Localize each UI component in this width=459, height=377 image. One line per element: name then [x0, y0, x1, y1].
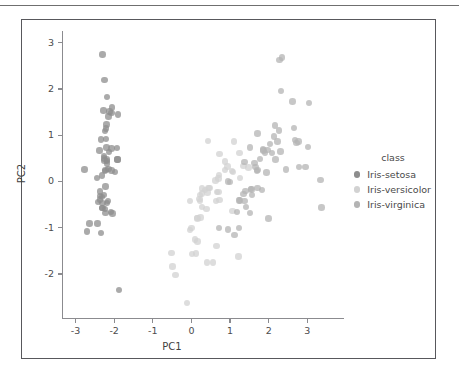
legend-item-label: Iris-versicolor — [367, 184, 431, 195]
scatter-point — [254, 130, 260, 136]
scatter-point — [306, 100, 312, 106]
scatter-point — [192, 236, 198, 242]
legend-entries: Iris-setosaIris-versicolorIris-virginica — [352, 167, 440, 212]
scatter-point — [109, 210, 115, 216]
scatter-point — [94, 220, 100, 226]
scatter-point — [241, 198, 247, 204]
legend-item-label: Iris-virginica — [367, 199, 425, 210]
scatter-point — [277, 148, 283, 154]
scatter-point — [257, 156, 263, 162]
scatter-point — [205, 138, 211, 144]
scatter-point — [97, 188, 103, 194]
scatter-point — [241, 159, 247, 165]
scatter-point — [231, 138, 237, 144]
scatter-point — [168, 250, 174, 256]
scatter-point — [305, 144, 311, 150]
scatter-point — [222, 158, 228, 164]
scatter-point — [102, 183, 108, 189]
scatter-point — [114, 156, 120, 162]
scatter-point — [295, 138, 301, 144]
scatter-point — [106, 108, 112, 114]
scatter-point — [101, 77, 107, 83]
scatter-point — [302, 164, 308, 170]
legend-marker-icon — [354, 186, 360, 192]
scatter-point — [169, 263, 175, 269]
scatter-point — [106, 149, 112, 155]
scatter-point — [204, 189, 210, 195]
scatter-point — [243, 204, 249, 210]
scatter-point — [187, 227, 193, 233]
scatter-point — [196, 196, 202, 202]
scatter-point — [81, 166, 87, 172]
scatter-point — [265, 215, 271, 221]
legend-marker-icon — [354, 171, 360, 177]
scatter-point — [216, 225, 222, 231]
scatter-point — [283, 166, 289, 172]
scatter-point — [271, 133, 277, 139]
scatter-point — [236, 150, 242, 156]
scatter-point — [199, 204, 205, 210]
scatter-point — [289, 98, 295, 104]
scatter-point — [236, 225, 242, 231]
scatter-point — [237, 175, 243, 181]
scatter-point — [234, 209, 240, 215]
scatter-point — [272, 122, 278, 128]
scatter-point — [269, 150, 275, 156]
scatter-point — [251, 160, 257, 166]
scatter-point — [249, 192, 255, 198]
legend-item[interactable]: Iris-virginica — [352, 197, 440, 212]
scatter-point — [114, 145, 120, 151]
scatter-point — [212, 177, 218, 183]
scatter-point — [215, 189, 221, 195]
legend-item[interactable]: Iris-setosa — [352, 167, 440, 182]
scatter-point — [263, 169, 269, 175]
legend-marker-icon — [354, 201, 360, 207]
scatter-point — [279, 54, 285, 60]
scatter-point — [97, 196, 103, 202]
scatter-point — [225, 178, 231, 184]
scatter-point — [278, 88, 284, 94]
scatter-point — [216, 151, 222, 157]
scatter-point — [84, 228, 90, 234]
scatter-point — [199, 185, 205, 191]
scatter-point — [210, 259, 216, 265]
scatter-point — [187, 198, 193, 204]
scatter-point — [235, 253, 241, 259]
scatter-point — [231, 232, 237, 238]
scatter-point — [247, 210, 253, 216]
scatter-point — [98, 230, 104, 236]
scatter-point — [247, 144, 253, 150]
scatter-point — [116, 287, 122, 293]
scatter-point — [184, 300, 190, 306]
scatter-point — [254, 185, 260, 191]
scatter-point — [222, 167, 228, 173]
scatter-point — [213, 198, 219, 204]
scatter-point — [213, 243, 219, 249]
scatter-point — [317, 177, 323, 183]
scatter-point — [103, 136, 109, 142]
scatter-point — [172, 272, 178, 278]
scatter-point — [104, 94, 110, 100]
scatter-point — [272, 156, 278, 162]
scatter-point — [262, 150, 268, 156]
legend: class Iris-setosaIris-versicolorIris-vir… — [352, 152, 440, 212]
scatter-point — [115, 111, 121, 117]
scatter-point — [267, 141, 273, 147]
scatter-point — [99, 51, 105, 57]
scatter-point — [99, 172, 105, 178]
legend-item[interactable]: Iris-versicolor — [352, 182, 440, 197]
scatter-point — [318, 204, 324, 210]
screenshot-root: -2-10123 -3-2-10123 PC1 PC2 class Iris-s… — [0, 0, 459, 377]
scatter-point — [86, 220, 92, 226]
scatter-point — [105, 198, 111, 204]
scatter-point — [236, 197, 242, 203]
scatter-point — [102, 167, 108, 173]
legend-item-label: Iris-setosa — [367, 169, 416, 180]
scatter-point — [291, 125, 297, 131]
legend-title: class — [358, 152, 428, 163]
scatter-point — [102, 128, 108, 134]
scatter-point — [225, 226, 231, 232]
